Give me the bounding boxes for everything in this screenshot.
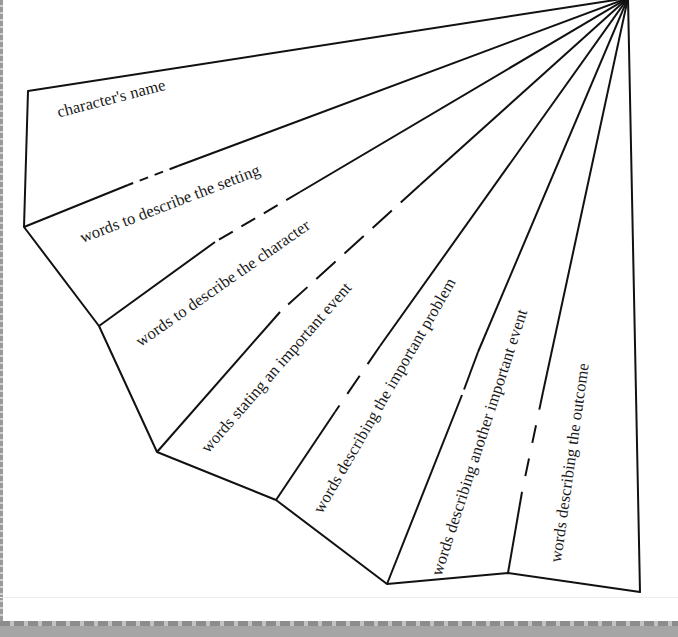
fold-line-1 [178, 0, 628, 166]
worksheet-page: character's name words to describe the s… [0, 0, 678, 637]
fold-line-3 [420, 0, 628, 185]
fold-line-1-dashed [128, 166, 178, 185]
fold-line-6-end [508, 492, 522, 573]
fold-line-5-dashed [462, 352, 478, 395]
fold-line-2 [300, 0, 628, 192]
fold-line-6-dashed [522, 392, 543, 492]
